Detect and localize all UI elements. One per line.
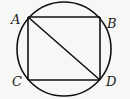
label-B: B (106, 16, 117, 31)
label-D: D (105, 74, 117, 89)
diagram-canvas: A B C D (0, 0, 130, 99)
label-C: C (12, 74, 22, 89)
geometry-diagram: A B C D (0, 0, 130, 99)
diagonal-AD (28, 17, 100, 80)
label-A: A (10, 12, 20, 27)
